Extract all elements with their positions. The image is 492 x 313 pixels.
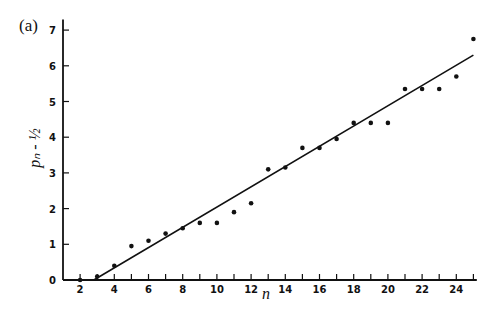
data-point <box>180 226 185 231</box>
data-point <box>112 263 117 268</box>
x-tick-label: 18 <box>347 284 361 295</box>
data-point <box>283 165 288 170</box>
data-point <box>163 231 168 236</box>
y-tick-label: 1 <box>49 239 56 250</box>
data-point <box>386 121 391 126</box>
data-point <box>215 221 220 226</box>
data-points <box>78 37 476 283</box>
x-axis-label: n <box>262 285 270 302</box>
x-tick-label: 12 <box>244 284 258 295</box>
y-axis-label: pₙ - ½ <box>26 128 44 168</box>
x-tick-label: 2 <box>77 284 84 295</box>
data-point <box>403 87 408 92</box>
y-tick-label: 0 <box>49 275 56 286</box>
data-point <box>317 146 322 151</box>
data-point <box>129 244 134 249</box>
data-point <box>198 221 203 226</box>
x-tick-label: 20 <box>381 284 395 295</box>
data-point <box>300 146 305 151</box>
data-point <box>471 37 476 42</box>
data-point <box>351 121 356 126</box>
x-tick-label: 8 <box>179 284 186 295</box>
x-tick-label: 6 <box>145 284 152 295</box>
data-point <box>266 167 271 172</box>
x-tick-label: 22 <box>415 284 429 295</box>
x-tick-label: 16 <box>313 284 327 295</box>
data-point <box>146 238 151 243</box>
data-point <box>249 201 254 206</box>
data-point <box>437 87 442 92</box>
data-point <box>454 74 459 79</box>
y-tick-label: 3 <box>49 168 56 179</box>
data-point <box>95 274 100 279</box>
y-tick-label: 6 <box>49 61 56 72</box>
data-point <box>334 137 339 142</box>
svg-text:pₙ - ½: pₙ - ½ <box>26 128 44 168</box>
data-point <box>420 87 425 92</box>
y-tick-label: 5 <box>49 97 56 108</box>
data-point <box>78 278 83 283</box>
x-tick-label: 10 <box>210 284 224 295</box>
scatter-chart: 0123456724681012141618202224 n pₙ - ½ <box>0 0 492 313</box>
y-tick-label: 7 <box>49 25 56 36</box>
axes: 0123456724681012141618202224 <box>49 19 477 295</box>
x-tick-label: 24 <box>449 284 463 295</box>
x-tick-label: 14 <box>278 284 292 295</box>
data-point <box>232 210 237 215</box>
y-tick-label: 2 <box>49 204 56 215</box>
data-point <box>369 121 374 126</box>
y-tick-label: 4 <box>49 132 56 143</box>
x-tick-label: 4 <box>111 284 118 295</box>
